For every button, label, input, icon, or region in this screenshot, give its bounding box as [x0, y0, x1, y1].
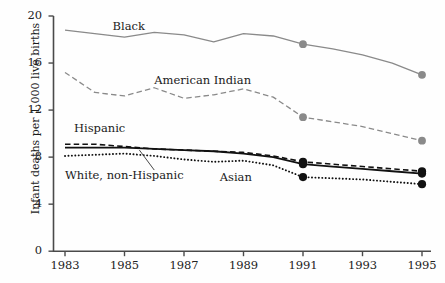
data-point-marker: [299, 40, 307, 48]
data-point-marker: [418, 137, 426, 145]
y-tick-label: 16: [8, 55, 42, 69]
data-point-marker: [299, 173, 307, 181]
x-tick-label: 1987: [164, 258, 204, 272]
chart-plot-area: [0, 0, 445, 283]
x-tick-label: 1991: [283, 258, 323, 272]
series-label-asian: Asian: [220, 170, 252, 184]
y-tick-label: 0: [8, 243, 42, 257]
data-point-marker: [418, 169, 426, 177]
y-tick-label: 8: [8, 149, 42, 163]
series-label-black: Black: [113, 19, 145, 33]
series-label-white-non-hispanic: White, non-Hispanic: [65, 168, 184, 182]
x-tick-label: 1985: [105, 258, 145, 272]
y-tick-label: 20: [8, 8, 42, 22]
data-point-marker: [418, 180, 426, 188]
data-point-marker: [299, 113, 307, 121]
series-label-american-indian: American Indian: [154, 73, 251, 87]
data-series-layer: [65, 30, 426, 188]
series-label-hispanic: Hispanic: [74, 121, 125, 135]
x-tick-label: 1983: [45, 258, 85, 272]
x-tick-label: 1995: [402, 258, 442, 272]
data-point-marker: [299, 160, 307, 168]
y-tick-label: 4: [8, 196, 42, 210]
y-tick-label: 12: [8, 102, 42, 116]
x-tick-label: 1989: [224, 258, 264, 272]
data-point-marker: [418, 71, 426, 79]
series-line-black: [65, 30, 422, 75]
x-tick-label: 1993: [343, 258, 383, 272]
infant-mortality-line-chart: Infant deaths per 1,000 live births 0481…: [0, 0, 445, 283]
